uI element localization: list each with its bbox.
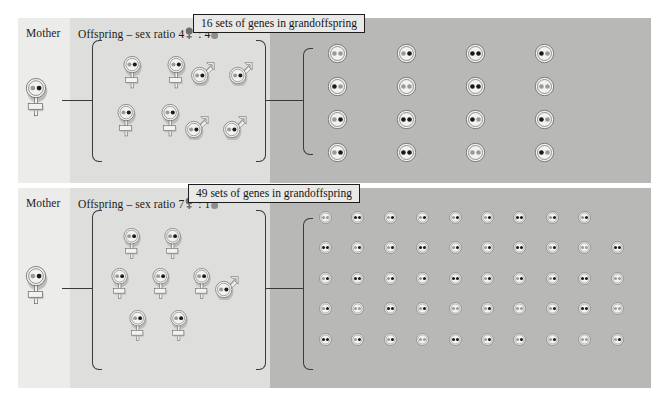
grand-gene-bottom-19 <box>610 240 626 262</box>
grand-gene-bottom-6 <box>480 210 496 232</box>
offspring-female-top-1 <box>122 56 144 94</box>
grand-gene-bottom-34 <box>448 301 464 323</box>
grand-gene-bottom-3 <box>383 210 399 232</box>
grand-gene-top-9 <box>326 108 350 140</box>
grand-gene-bottom-30 <box>318 301 334 323</box>
grand-gene-bottom-33 <box>415 301 431 323</box>
mother-symbol-top <box>24 78 50 122</box>
bracket-offspring-close-bottom <box>256 210 266 370</box>
grand-gene-bottom-18 <box>577 240 593 262</box>
offspring-female-top-2 <box>166 56 188 94</box>
grand-gene-top-8 <box>533 75 557 107</box>
grand-gene-top-6 <box>395 75 419 107</box>
grand-gene-bottom-2 <box>350 210 366 232</box>
grand-gene-top-5 <box>326 75 350 107</box>
offspring-male-top-4 <box>222 110 249 144</box>
connector-offspring-grand-bottom <box>265 288 303 289</box>
grand-gene-bottom-31 <box>350 301 366 323</box>
grand-gene-bottom-1 <box>318 210 334 232</box>
grand-gene-bottom-42 <box>383 332 399 354</box>
grand-gene-bottom-10 <box>318 240 334 262</box>
grand-gene-top-4 <box>533 42 557 74</box>
grand-gene-bottom-29 <box>610 271 626 293</box>
grand-gene-bottom-28 <box>577 271 593 293</box>
grand-gene-bottom-24 <box>448 271 464 293</box>
offspring-male-bottom-1 <box>214 270 241 304</box>
grand-gene-bottom-17 <box>545 240 561 262</box>
grand-gene-top-1 <box>326 42 350 74</box>
mother-label-bottom: Mother <box>26 197 60 209</box>
grand-gene-bottom-9 <box>577 210 593 232</box>
grand-gene-bottom-26 <box>512 271 528 293</box>
figure-canvas: Mother Offspring – sex ratio 4 : 4 16 se… <box>0 0 669 406</box>
grand-gene-bottom-7 <box>512 210 528 232</box>
grand-gene-bottom-47 <box>545 332 561 354</box>
bracket-grand-open-top <box>303 48 313 155</box>
bracket-offspring-open-bottom <box>92 210 102 370</box>
grand-gene-bottom-41 <box>350 332 366 354</box>
grand-gene-bottom-45 <box>480 332 496 354</box>
connector-offspring-grand-top <box>265 100 303 101</box>
grand-gene-bottom-36 <box>512 301 528 323</box>
row-bottom: Mother Offspring – sex ratio 7 : 1 49 se… <box>18 188 651 388</box>
grandoffspring-title-box-top: 16 sets of genes in grandoffspring <box>193 14 365 33</box>
grand-gene-bottom-11 <box>350 240 366 262</box>
offspring-female-top-3 <box>116 104 138 142</box>
mother-symbol-bottom <box>24 266 50 310</box>
grand-gene-top-2 <box>395 42 419 74</box>
connector-mother-offspring-top <box>62 100 92 101</box>
grand-gene-top-16 <box>533 141 557 173</box>
grand-gene-bottom-12 <box>383 240 399 262</box>
grand-gene-bottom-25 <box>480 271 496 293</box>
grand-gene-top-11 <box>464 108 488 140</box>
offspring-male-top-3 <box>184 110 211 144</box>
row-top: Mother Offspring – sex ratio 4 : 4 16 se… <box>18 18 651 183</box>
grand-gene-bottom-21 <box>350 271 366 293</box>
bracket-grand-open-bottom <box>303 218 313 370</box>
offspring-female-bottom-4 <box>151 268 172 305</box>
offspring-male-top-2 <box>228 56 255 90</box>
grand-gene-bottom-14 <box>448 240 464 262</box>
connector-mother-offspring-bottom <box>62 288 92 289</box>
offspring-female-bottom-5 <box>192 268 213 305</box>
offspring-female-bottom-6 <box>128 310 149 347</box>
grand-gene-bottom-32 <box>383 301 399 323</box>
grand-gene-bottom-13 <box>415 240 431 262</box>
grand-gene-bottom-46 <box>512 332 528 354</box>
grand-gene-bottom-39 <box>610 301 626 323</box>
grand-gene-bottom-40 <box>318 332 334 354</box>
offspring-female-bottom-2 <box>163 228 184 265</box>
bracket-offspring-open-top <box>92 40 102 162</box>
grand-gene-bottom-8 <box>545 210 561 232</box>
grand-gene-bottom-4 <box>415 210 431 232</box>
grand-gene-bottom-16 <box>512 240 528 262</box>
offspring-female-bottom-3 <box>110 268 131 305</box>
offspring-female-bottom-7 <box>169 310 190 347</box>
grand-gene-top-14 <box>395 141 419 173</box>
grand-gene-bottom-5 <box>448 210 464 232</box>
offspring-ratio-prefix-top: Offspring – sex ratio <box>78 28 178 40</box>
grand-gene-top-15 <box>464 141 488 173</box>
offspring-male-top-1 <box>190 56 217 90</box>
grand-gene-top-12 <box>533 108 557 140</box>
grand-gene-bottom-35 <box>480 301 496 323</box>
grand-gene-bottom-15 <box>480 240 496 262</box>
grand-gene-top-7 <box>464 75 488 107</box>
offspring-female-bottom-1 <box>122 228 143 265</box>
grand-gene-top-3 <box>464 42 488 74</box>
grand-gene-bottom-38 <box>577 301 593 323</box>
grandoffspring-title-box-bottom: 49 sets of genes in grandoffspring <box>188 184 360 203</box>
grand-gene-bottom-49 <box>610 332 626 354</box>
grand-gene-top-10 <box>395 108 419 140</box>
grand-gene-bottom-20 <box>318 271 334 293</box>
grand-gene-bottom-44 <box>448 332 464 354</box>
grand-gene-bottom-22 <box>383 271 399 293</box>
grand-gene-bottom-48 <box>577 332 593 354</box>
grand-gene-bottom-23 <box>415 271 431 293</box>
mother-label-top: Mother <box>26 27 60 39</box>
grand-gene-top-13 <box>326 141 350 173</box>
grand-gene-bottom-37 <box>545 301 561 323</box>
grand-gene-bottom-27 <box>545 271 561 293</box>
offspring-ratio-prefix-bottom: Offspring – sex ratio <box>78 198 178 210</box>
offspring-female-top-4 <box>160 104 182 142</box>
